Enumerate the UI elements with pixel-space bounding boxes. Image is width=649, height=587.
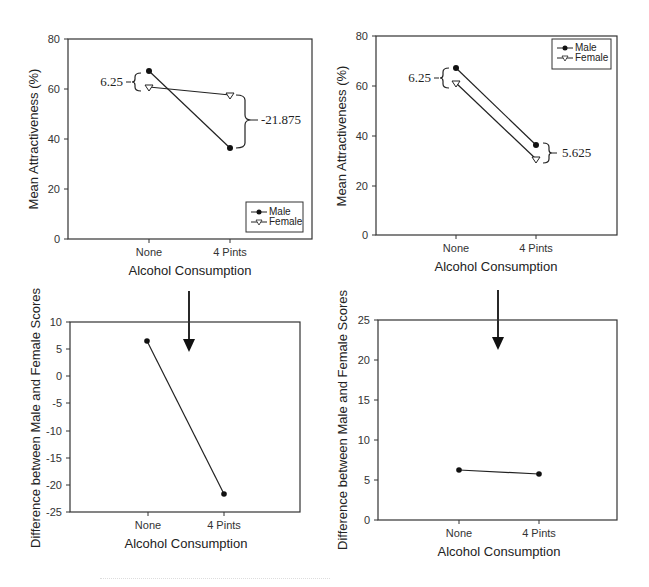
y-tick-0: 0	[364, 514, 370, 526]
y-tick-minus-5: -5	[52, 397, 62, 409]
y-tick-60: 60	[48, 83, 60, 95]
y-tick-minus-15: -15	[46, 452, 62, 464]
y-tick-80: 80	[356, 30, 368, 42]
x-axis-label: Alcohol Consumption	[438, 544, 561, 559]
y-tick-20: 20	[358, 354, 370, 366]
chart-bottom-right: 25 20 15 10 5 0 None 4 Pints Alcohol Con…	[335, 290, 617, 559]
y-axis-label: Difference between Male and Female Score…	[335, 290, 350, 550]
legend: Male Female	[246, 202, 303, 232]
y-tick-10: 10	[358, 434, 370, 446]
male-series-line	[149, 71, 230, 148]
difference-series-line	[147, 341, 224, 494]
legend-female-label: Female	[575, 52, 609, 63]
legend: Male Female	[552, 39, 611, 69]
x-tick-none: None	[446, 527, 472, 539]
legend-male-marker-icon	[257, 210, 262, 215]
y-tick-0: 0	[56, 370, 62, 382]
chart-top-right: 80 60 40 20 0 None 4 Pints Alcohol Consu…	[334, 30, 617, 274]
bleed-through-artifact	[100, 578, 330, 580]
chart-bottom-left: 10 5 0 -5 -10 -15 -20 -25 None 4 Pints A…	[28, 288, 300, 551]
difference-point-4-pints	[221, 491, 227, 497]
y-tick-minus-20: -20	[46, 479, 62, 491]
male-point-none	[453, 65, 459, 71]
x-axis-label: Alcohol Consumption	[129, 263, 252, 278]
brace-icon	[543, 143, 552, 163]
difference-point-4-pints	[536, 471, 542, 477]
y-axis-ticks	[66, 322, 224, 516]
x-tick-4-pints: 4 Pints	[519, 242, 553, 254]
y-tick-80: 80	[48, 33, 60, 45]
figure-canvas: 80 60 40 20 0 None 4 Pints Alcohol Consu…	[0, 0, 649, 587]
brace-icon	[236, 95, 251, 148]
x-tick-4-pints: 4 Pints	[207, 519, 241, 531]
x-tick-4-pints: 4 Pints	[213, 246, 247, 258]
y-tick-minus-25: -25	[46, 506, 62, 518]
male-series-line	[456, 68, 536, 145]
female-point-4-pints	[532, 157, 540, 163]
y-axis-label: Mean Attractiveness (%)	[26, 69, 41, 210]
brace-icon	[440, 68, 449, 88]
annotation-6-25: 6.25	[100, 74, 123, 89]
female-series-line	[149, 87, 230, 95]
difference-series-line	[459, 470, 539, 474]
y-tick-10: 10	[50, 316, 62, 328]
difference-point-none	[144, 338, 150, 344]
y-tick-0: 0	[54, 233, 60, 245]
difference-point-none	[456, 467, 462, 473]
y-tick-20: 20	[356, 180, 368, 192]
y-axis-label: Difference between Male and Female Score…	[28, 288, 43, 548]
annotation-minus-21-875: -21.875	[261, 112, 301, 127]
y-tick-15: 15	[358, 394, 370, 406]
female-series-line	[456, 83, 536, 159]
y-tick-5: 5	[364, 474, 370, 486]
male-point-4-pints	[227, 145, 233, 151]
x-tick-none: None	[136, 246, 162, 258]
y-axis-ticks	[374, 320, 539, 524]
chart-top-left: 80 60 40 20 0 None 4 Pints Alcohol Consu…	[26, 33, 312, 278]
x-axis-label: Alcohol Consumption	[435, 259, 558, 274]
female-point-4-pints	[226, 93, 234, 99]
plot-frame	[378, 320, 617, 520]
x-tick-none: None	[443, 242, 469, 254]
annotation-5-625: 5.625	[562, 145, 591, 160]
female-point-none	[145, 85, 153, 91]
x-tick-4-pints: 4 Pints	[522, 527, 556, 539]
legend-male-marker-icon	[563, 46, 568, 51]
y-axis-label: Mean Attractiveness (%)	[334, 66, 349, 207]
x-tick-none: None	[135, 519, 161, 531]
y-tick-minus-10: -10	[46, 425, 62, 437]
y-tick-20: 20	[48, 183, 60, 195]
y-tick-0: 0	[362, 229, 368, 241]
male-point-none	[146, 68, 152, 74]
legend-female-label: Female	[269, 216, 303, 227]
x-axis-label: Alcohol Consumption	[125, 536, 248, 551]
male-point-4-pints	[533, 142, 539, 148]
y-tick-5: 5	[56, 343, 62, 355]
y-tick-25: 25	[358, 314, 370, 326]
y-tick-40: 40	[356, 130, 368, 142]
brace-icon	[132, 73, 141, 91]
y-tick-40: 40	[48, 133, 60, 145]
y-tick-60: 60	[356, 80, 368, 92]
annotation-6-25: 6.25	[408, 70, 431, 85]
